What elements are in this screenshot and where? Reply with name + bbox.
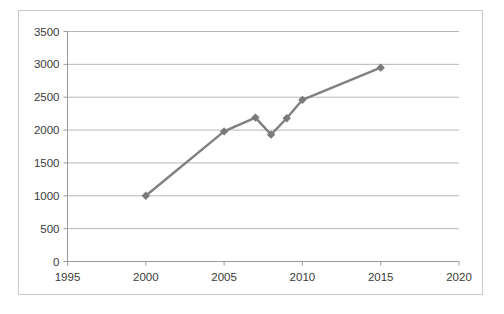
gridlines	[68, 32, 460, 262]
x-axis-tick-label: 2015	[368, 271, 394, 283]
series-markers	[142, 63, 385, 200]
y-axis-tick-label: 3500	[19, 26, 60, 38]
x-axis-tick-label: 2020	[446, 271, 472, 283]
x-axis-tick-label: 1995	[55, 271, 81, 283]
y-axis-tick-label: 500	[19, 223, 60, 235]
y-axis-tick-label: 2000	[19, 124, 60, 136]
y-axis-tick-label: 1500	[19, 157, 60, 169]
y-axis-tick-label: 1000	[19, 190, 60, 202]
x-axis-tick-label: 2005	[211, 271, 237, 283]
y-axis-tick-label: 2500	[19, 91, 60, 103]
line-chart	[19, 11, 482, 294]
chart-frame: 0500100015002000250030003500199520002005…	[18, 10, 483, 295]
axes	[64, 32, 460, 266]
x-axis-tick-label: 2010	[290, 271, 316, 283]
y-axis-tick-label: 0	[19, 256, 60, 268]
series-line	[146, 68, 381, 196]
y-axis-tick-label: 3000	[19, 58, 60, 70]
x-axis-tick-label: 2000	[133, 271, 159, 283]
